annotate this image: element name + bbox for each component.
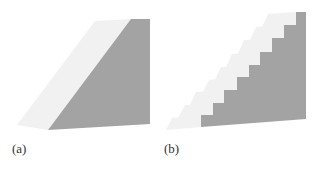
staircase-illustration <box>159 0 318 140</box>
figure-b-staircase: (b) <box>159 0 318 170</box>
figure-label-a: (a) <box>12 141 26 157</box>
figure-label-b: (b) <box>164 141 179 157</box>
stair-side-face <box>201 12 306 127</box>
figure-a-ramp: (a) <box>0 0 159 170</box>
ramp-illustration <box>0 0 159 140</box>
